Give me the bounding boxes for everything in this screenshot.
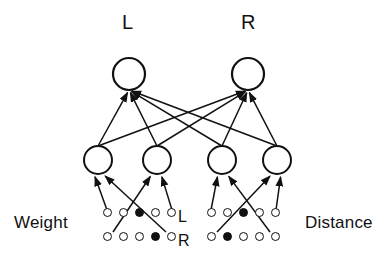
input-unit-distance-group-R-1[interactable] <box>207 232 216 241</box>
input-row-distance-group-L <box>207 208 280 217</box>
output-node-r[interactable] <box>232 58 264 90</box>
input-row-label-L: L <box>178 209 187 225</box>
input-row-weight-group-R <box>103 232 176 241</box>
input-unit-distance-group-L-5[interactable] <box>271 208 280 217</box>
edge-weight-group-row-R-to-hidden-a <box>105 176 166 232</box>
edges-input-to-hidden <box>95 176 281 232</box>
edge-weight-group-row-L-to-hidden-b <box>162 177 172 210</box>
output-label-left: L <box>122 12 134 32</box>
input-unit-weight-group-R-3[interactable] <box>135 232 144 241</box>
edge-hid-3-to-out-L <box>132 92 222 146</box>
input-unit-distance-group-R-5[interactable] <box>271 232 280 241</box>
input-unit-distance-group-R-2[interactable] <box>223 232 232 241</box>
output-node-l[interactable] <box>113 58 145 90</box>
input-unit-weight-group-L-3[interactable] <box>135 208 144 217</box>
input-unit-distance-group-R-4[interactable] <box>255 232 264 241</box>
input-unit-weight-group-L-2[interactable] <box>119 208 128 217</box>
input-row-label-R: R <box>178 233 190 249</box>
edge-distance-group-row-R-to-hidden-a <box>229 176 270 232</box>
hidden-node-3[interactable] <box>208 146 236 174</box>
edge-distance-group-row-R-to-hidden-b <box>217 176 270 232</box>
output-layer-nodes <box>113 58 264 90</box>
input-row-weight-group-L <box>103 208 176 217</box>
input-unit-distance-group-L-3[interactable] <box>239 208 248 217</box>
edge-weight-group-row-R-to-hidden-b <box>113 176 150 232</box>
input-unit-weight-group-R-5[interactable] <box>167 232 176 241</box>
edge-hid-1-to-out-L <box>98 93 128 146</box>
edge-weight-group-row-L-to-hidden-a <box>95 177 107 210</box>
input-unit-distance-group-L-2[interactable] <box>223 208 232 217</box>
hidden-node-1[interactable] <box>84 146 112 174</box>
input-unit-distance-group-L-1[interactable] <box>207 208 216 217</box>
input-unit-weight-group-R-2[interactable] <box>119 232 128 241</box>
input-unit-weight-group-L-1[interactable] <box>103 208 112 217</box>
edge-hid-2-to-out-L <box>130 93 157 146</box>
edges-hidden-to-output <box>98 91 277 146</box>
edge-distance-group-row-L-to-hidden-a <box>211 177 217 210</box>
input-group-label-distance: Distance <box>305 214 373 231</box>
input-unit-weight-group-R-4[interactable] <box>151 232 160 241</box>
edge-hid-4-to-out-R <box>249 93 277 146</box>
input-unit-weight-group-R-1[interactable] <box>103 232 112 241</box>
edge-distance-group-row-L-to-hidden-b <box>276 177 281 210</box>
input-unit-distance-group-R-3[interactable] <box>239 232 248 241</box>
output-label-right: R <box>241 12 256 32</box>
diagram-canvas: L R Weight Distance L R <box>0 0 388 268</box>
hidden-node-4[interactable] <box>263 146 291 174</box>
hidden-node-2[interactable] <box>143 146 171 174</box>
input-group-label-weight: Weight <box>14 214 68 231</box>
input-unit-weight-group-L-4[interactable] <box>151 208 160 217</box>
input-unit-weight-group-L-5[interactable] <box>167 208 176 217</box>
input-row-distance-group-R <box>207 232 280 241</box>
edge-hid-3-to-out-R <box>222 93 247 146</box>
input-unit-distance-group-L-4[interactable] <box>255 208 264 217</box>
hidden-layer-nodes <box>84 146 291 174</box>
